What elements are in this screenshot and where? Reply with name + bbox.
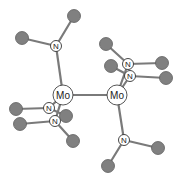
nitrogen-atom: N <box>125 71 136 82</box>
molecule-canvas: NNNNNN MoMo <box>0 0 186 183</box>
carbon-atoms-layer <box>10 10 173 173</box>
molybdenum-atom: Mo <box>107 85 127 105</box>
carbon-atom <box>67 135 80 148</box>
nitrogen-label: N <box>52 117 58 126</box>
carbon-atom <box>105 60 118 73</box>
nitrogen-atom: N <box>50 116 61 127</box>
carbon-atom <box>160 72 173 85</box>
nitrogen-label: N <box>121 136 127 145</box>
carbon-atom <box>102 160 115 173</box>
nitrogen-label: N <box>127 72 133 81</box>
nitrogen-atom: N <box>119 135 130 146</box>
molybdenum-atom: Mo <box>53 85 73 105</box>
carbon-atom <box>16 32 29 45</box>
bonds-layer <box>16 16 166 166</box>
molybdenum-label: Mo <box>56 90 70 101</box>
carbon-atom <box>14 118 27 131</box>
nitrogen-label: N <box>125 60 131 69</box>
carbon-atom <box>60 110 73 123</box>
nitrogen-atom: N <box>123 59 134 70</box>
nitrogen-label: N <box>46 104 52 113</box>
nitrogen-label: N <box>53 42 59 51</box>
carbon-atom <box>10 103 23 116</box>
carbon-atom <box>68 10 81 23</box>
molecule-diagram: NNNNNN MoMo <box>0 0 186 183</box>
molybdenum-label: Mo <box>110 90 124 101</box>
nitrogen-atom: N <box>44 103 55 114</box>
carbon-atom <box>156 57 169 70</box>
nitrogen-atom: N <box>51 41 62 52</box>
carbon-atom <box>152 142 165 155</box>
carbon-atom <box>100 38 113 51</box>
